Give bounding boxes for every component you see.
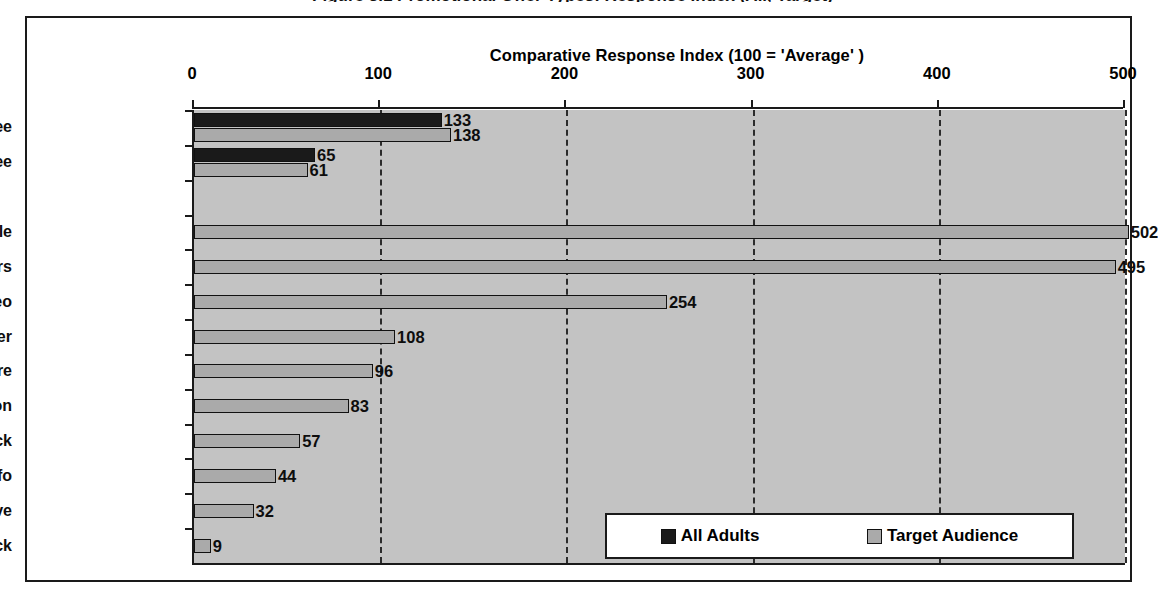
x-tick-mark-200 [564,100,566,108]
y-axis-category-label: Brochure [0,362,12,380]
legend-swatch-icon [661,529,676,544]
bar-all-adults [194,148,315,162]
x-tick-label-400: 400 [923,64,951,83]
bar-target-audience [194,260,1116,274]
bar-target-audience [194,225,1129,239]
bar-value-label: 9 [213,536,222,555]
y-tick-mark [185,458,194,460]
legend-entry-all-adults[interactable]: All Adults [661,526,760,546]
y-tick-mark [185,319,194,321]
legend-entry-target-audience[interactable]: Target Audience [867,526,1018,546]
y-tick-mark [185,145,194,147]
y-tick-mark [185,493,194,495]
bar-target-audience [194,330,395,344]
y-tick-mark [185,249,194,251]
bar-value-label: 138 [453,125,481,144]
x-tick-mark-400 [937,100,939,108]
y-tick-mark [185,180,194,182]
gridline-200 [566,110,568,563]
y-tick-mark [185,284,194,286]
x-tick-label-200: 200 [551,64,579,83]
x-tick-label-0: 0 [187,64,196,83]
x-axis-tick-labels: 0100200300400500 [0,64,1145,88]
bar-target-audience [194,399,349,413]
y-axis-category-label: Competition [0,397,12,415]
bar-value-label: 32 [256,501,274,520]
bar-target-audience [194,504,254,518]
y-axis-category-label: Vouchers [0,258,12,276]
x-tick-mark-0 [192,100,194,108]
x-tick-mark-300 [751,100,753,108]
y-axis-category-label: Info Pack [0,432,12,450]
y-axis-category-label: Free [0,118,12,136]
x-tick-mark-100 [378,100,380,108]
bar-target-audience [194,163,308,177]
bar-value-label: 61 [310,160,328,179]
y-axis-category-label: Call-back [0,537,12,555]
y-tick-mark [185,424,194,426]
y-tick-mark [185,528,194,530]
gridline-400 [939,110,941,563]
bar-value-label: 57 [302,432,320,451]
legend-label: All Adults [681,526,760,546]
bar-value-label: 44 [278,466,296,485]
x-tick-label-300: 300 [737,64,765,83]
y-axis-category-label: DVD/Video [0,293,12,311]
x-axis-line [192,107,1123,109]
x-tick-label-500: 500 [1109,64,1137,83]
bar-target-audience [194,295,667,309]
bar-all-adults [194,113,442,127]
bar-value-label: 96 [375,362,393,381]
bar-target-audience [194,128,451,142]
y-axis-category-label: Test Drive [0,502,12,520]
gridline-300 [753,110,755,563]
y-tick-mark [185,110,194,112]
bar-target-audience [194,434,300,448]
x-tick-label-100: 100 [364,64,392,83]
chart-legend: All AdultsTarget Audience [605,513,1074,559]
x-tick-mark-500 [1123,100,1125,108]
bar-target-audience [194,469,276,483]
bar-value-label: 502 [1131,222,1158,241]
x-axis-title: Comparative Response Index (100 = 'Avera… [197,46,1157,65]
figure-caption: Figure 3.1 Promotional Offer Types: Resp… [0,0,1145,2]
legend-swatch-icon [867,529,882,544]
y-tick-mark [185,354,194,356]
bar-value-label: 495 [1118,257,1146,276]
y-tick-mark [185,215,194,217]
x-axis-ruler [192,107,1123,108]
bar-value-label: 108 [397,327,425,346]
gridline-500 [1125,110,1127,563]
bar-value-label: 83 [351,397,369,416]
bar-target-audience [194,364,373,378]
legend-label: Target Audience [887,526,1018,546]
y-tick-mark [185,389,194,391]
bar-value-label: 254 [669,292,697,311]
y-axis-category-label: Movie Trailer [0,328,12,346]
bar-target-audience [194,539,211,553]
y-axis-category-label: More Info [0,467,12,485]
y-axis-category-label: Sample [0,223,12,241]
plot-area [192,110,1125,565]
y-axis-category-label: No Free [0,153,12,171]
